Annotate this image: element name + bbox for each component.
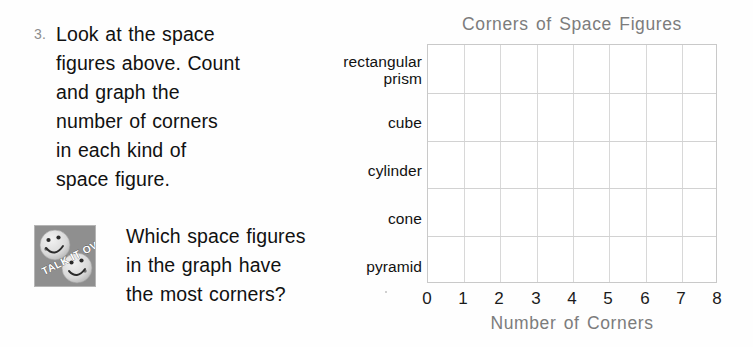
x-axis-ticks: 0 1 2 3 4 5 6 7 8 — [427, 289, 717, 311]
exercise-line: space figure. — [56, 165, 240, 194]
y-axis-label-cylinder: cylinder — [310, 162, 422, 179]
talk-line: Which space figures — [126, 222, 305, 251]
gridline-vertical — [500, 45, 501, 282]
y-axis-labels: rectangular prism cube cylinder cone pyr… — [310, 44, 422, 283]
plot-grid[interactable] — [427, 44, 717, 283]
gridline-vertical — [464, 45, 465, 282]
gridline-horizontal — [428, 93, 716, 94]
x-tick-1: 1 — [451, 289, 475, 309]
x-tick-3: 3 — [524, 289, 548, 309]
x-tick-7: 7 — [669, 289, 693, 309]
x-axis-title: Number of Corners — [427, 313, 717, 334]
gridline-horizontal — [428, 141, 716, 142]
gridline-horizontal — [428, 188, 716, 189]
talk-it-over-text: Which space figures in the graph have th… — [126, 222, 305, 309]
gridline-vertical — [537, 45, 538, 282]
scan-speck — [385, 291, 387, 293]
talk-line: in the graph have — [126, 251, 305, 280]
talk-it-over-icon: TALK IT OVER — [34, 225, 96, 287]
y-axis-label-line: prism — [310, 70, 422, 87]
gridline-vertical — [573, 45, 574, 282]
exercise-line: number of corners — [56, 107, 240, 136]
exercise-3: 3. Look at the space figures above. Coun… — [34, 20, 324, 194]
x-tick-4: 4 — [560, 289, 584, 309]
talk-it-over-block: TALK IT OVER Which space figures in the … — [34, 222, 326, 309]
chart-title: Corners of Space Figures — [427, 14, 717, 35]
talk-line: the most corners? — [126, 280, 305, 309]
exercise-number: 3. — [34, 20, 56, 49]
exercise-line: figures above. Count — [56, 49, 240, 78]
exercise-row: 3. Look at the space figures above. Coun… — [34, 20, 324, 194]
worksheet-page: 3. Look at the space figures above. Coun… — [0, 0, 753, 347]
y-axis-label-rectangular-prism: rectangular prism — [310, 53, 422, 87]
x-tick-6: 6 — [633, 289, 657, 309]
exercise-text: Look at the space figures above. Count a… — [56, 20, 240, 194]
exercise-line: and graph the — [56, 78, 240, 107]
y-axis-label-pyramid: pyramid — [310, 258, 422, 275]
gridline-vertical — [609, 45, 610, 282]
x-tick-0: 0 — [415, 289, 439, 309]
y-axis-label-line: rectangular — [310, 53, 422, 70]
gridline-vertical — [646, 45, 647, 282]
y-axis-label-cone: cone — [310, 210, 422, 227]
gridline-horizontal — [428, 236, 716, 237]
x-tick-5: 5 — [596, 289, 620, 309]
exercise-line: in each kind of — [56, 136, 240, 165]
talk-it-over-icon-art: TALK IT OVER — [35, 226, 95, 286]
y-axis-label-cube: cube — [310, 114, 422, 131]
bar-graph: Corners of Space Figures rectangular pri… — [310, 8, 746, 343]
gridline-vertical — [682, 45, 683, 282]
x-tick-2: 2 — [487, 289, 511, 309]
x-tick-8: 8 — [705, 289, 729, 309]
exercise-line: Look at the space — [56, 20, 240, 49]
